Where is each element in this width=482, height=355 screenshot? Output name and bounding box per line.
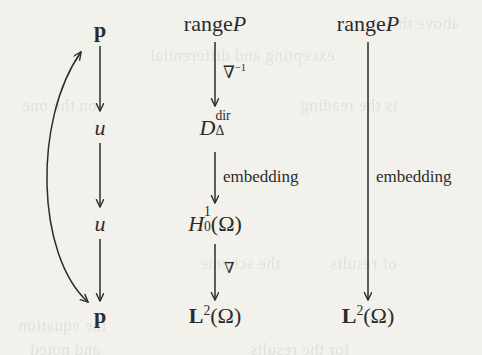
commutative-diagram: excepting and differential on the one is… (0, 0, 482, 355)
node-u-lower: u (95, 213, 106, 235)
node-range-p-right: rangeP (337, 13, 399, 35)
arrow-label-embedding-right: embedding (376, 168, 452, 185)
h-superscript-1: 1 (204, 205, 211, 219)
node-l2-omega-right: L2(Ω) (342, 305, 395, 327)
node-d-delta-dir: DdirdirΔ (199, 117, 230, 139)
h-subscript-0: 0 (204, 220, 211, 234)
omega-parens: (Ω) (211, 211, 242, 236)
d-base-letter: D (199, 115, 215, 140)
range-roman-text: range (184, 11, 233, 36)
range-italic-p: P (386, 11, 399, 36)
range-roman-text: range (337, 11, 386, 36)
d-script-stack: dirdirΔ (215, 117, 230, 139)
l-base-letter: L (342, 303, 357, 328)
nabla-exponent-minus-one: −1 (235, 62, 246, 73)
node-u-upper: u (95, 117, 106, 139)
node-p-top: p (94, 19, 106, 41)
node-h-1-0-omega: H110(Ω) (188, 213, 242, 235)
node-p-bottom: p (94, 305, 106, 327)
d-subscript-delta: Δ (215, 124, 224, 138)
l-superscript-2: 2 (203, 303, 210, 318)
curved-double-headed-arrow (47, 52, 88, 302)
omega-parens: (Ω) (210, 303, 241, 328)
omega-parens: (Ω) (363, 303, 394, 328)
l-base-letter: L (189, 303, 204, 328)
h-base-letter: H (188, 211, 204, 236)
arrow-label-nabla-inverse: ∇−1 (223, 64, 246, 81)
arrow-label-nabla: ∇ (224, 261, 234, 276)
node-l2-omega-middle: L2(Ω) (189, 305, 242, 327)
range-italic-p: P (233, 11, 246, 36)
node-range-p-middle: rangeP (184, 13, 246, 35)
l-superscript-2: 2 (356, 303, 363, 318)
curved-arrow-reverse-head (47, 52, 88, 302)
d-superscript-dir: dir (215, 109, 230, 123)
h-script-stack: 110 (204, 213, 211, 235)
nabla-glyph: ∇ (223, 63, 235, 82)
arrow-label-embedding-middle: embedding (223, 168, 299, 185)
